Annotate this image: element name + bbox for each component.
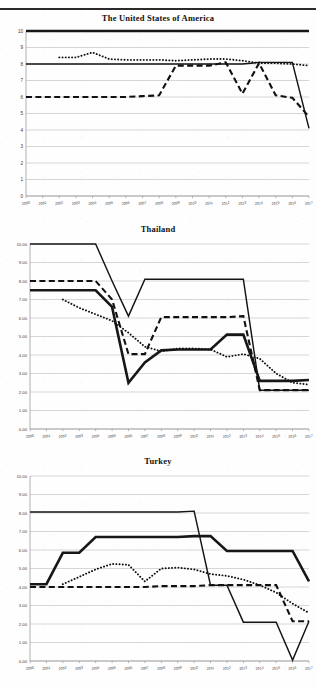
x-axis-tick-label: 2016 xyxy=(288,434,296,439)
y-axis-tick-label: 7.00 xyxy=(19,529,28,534)
x-axis-tick-label: 2008 xyxy=(155,201,163,206)
plot-svg-thailand: 0.001.002.003.004.005.006.007.008.009.00… xyxy=(0,235,316,457)
x-axis-tick-label: 2009 xyxy=(173,434,181,439)
x-axis-tick-label: 2006 xyxy=(124,666,132,671)
x-axis-tick-label: 2008 xyxy=(157,434,165,439)
x-axis-tick-label: 2005 xyxy=(108,434,116,439)
x-axis-tick-label: 2009 xyxy=(173,666,181,671)
x-axis-tick-label: 2002 xyxy=(55,201,63,206)
x-axis-tick-label: 2003 xyxy=(75,666,83,671)
plot-svg-usa: 0123456789102000200120022003200420052006… xyxy=(0,24,316,229)
plot-thailand: 0.001.002.003.004.005.006.007.008.009.00… xyxy=(0,235,316,457)
y-axis-tick-label: 1.00 xyxy=(19,408,28,413)
x-axis-tick-label: 2000 xyxy=(26,666,34,671)
series-line-thick-solid xyxy=(30,536,309,584)
y-axis-tick-label: 8 xyxy=(20,62,23,67)
y-axis-tick-label: 0.00 xyxy=(19,427,28,432)
y-axis-tick-label: 10.00 xyxy=(17,474,28,479)
x-axis-tick-label: 2004 xyxy=(91,434,99,439)
y-axis-tick-label: 6 xyxy=(20,95,23,100)
x-axis-tick-label: 2017 xyxy=(305,666,313,671)
x-axis-tick-label: 2013 xyxy=(239,666,247,671)
x-axis-tick-label: 2010 xyxy=(188,201,196,206)
y-axis-tick-label: 4.00 xyxy=(19,585,28,590)
y-axis-tick-label: 9.00 xyxy=(19,492,28,497)
scanned-page: The United States of America 01234567891… xyxy=(0,0,316,689)
x-axis-tick-label: 2014 xyxy=(255,666,263,671)
chart-title-usa: The United States of America xyxy=(0,13,316,24)
y-axis-tick-label: 5.00 xyxy=(19,566,28,571)
y-axis-tick-label: 9.00 xyxy=(19,260,28,265)
x-axis-tick-label: 2001 xyxy=(42,434,50,439)
chart-block-turkey: Turkey 0.001.002.003.004.005.006.007.008… xyxy=(0,456,316,689)
x-axis-tick-label: 2003 xyxy=(72,201,80,206)
x-axis-tick-label: 2017 xyxy=(305,434,313,439)
y-axis-tick-label: 3.00 xyxy=(19,371,28,376)
y-axis-tick-label: 10.00 xyxy=(17,242,28,247)
x-axis-tick-label: 2015 xyxy=(272,434,280,439)
x-axis-tick-label: 2004 xyxy=(88,201,96,206)
x-axis-tick-label: 2017 xyxy=(305,201,313,206)
y-axis-tick-label: 4.00 xyxy=(19,353,28,358)
x-axis-tick-label: 2000 xyxy=(26,434,34,439)
x-axis-tick-label: 2004 xyxy=(91,666,99,671)
y-axis-tick-label: 2.00 xyxy=(19,622,28,627)
x-axis-tick-label: 2010 xyxy=(190,666,198,671)
series-line-dashed xyxy=(30,585,309,621)
y-axis-tick-label: 8.00 xyxy=(19,511,28,516)
plot-svg-turkey: 0.001.002.003.004.005.006.007.008.009.00… xyxy=(0,467,316,689)
chart-title-thailand: Thailand xyxy=(0,224,316,235)
x-axis-tick-label: 2002 xyxy=(58,434,66,439)
x-axis-tick-label: 2011 xyxy=(206,434,214,439)
y-axis-tick-label: 5 xyxy=(20,111,23,116)
y-axis-tick-label: 9 xyxy=(20,45,23,50)
x-axis-tick-label: 2001 xyxy=(38,201,46,206)
y-axis-tick-label: 10 xyxy=(18,29,24,34)
x-axis-tick-label: 2015 xyxy=(271,201,279,206)
y-axis-tick-label: 2 xyxy=(20,161,23,166)
header-divider-rule xyxy=(0,8,316,10)
x-axis-tick-label: 2013 xyxy=(238,201,246,206)
x-axis-tick-label: 2002 xyxy=(58,666,66,671)
chart-title-turkey: Turkey xyxy=(0,456,316,467)
x-axis-tick-label: 2007 xyxy=(141,434,149,439)
y-axis-tick-label: 6.00 xyxy=(19,548,28,553)
x-axis-tick-label: 2016 xyxy=(288,666,296,671)
x-axis-tick-label: 2005 xyxy=(105,201,113,206)
y-axis-tick-label: 1.00 xyxy=(19,640,28,645)
x-axis-tick-label: 2003 xyxy=(75,434,83,439)
x-axis-tick-label: 2006 xyxy=(124,434,132,439)
x-axis-tick-label: 2016 xyxy=(288,201,296,206)
y-axis-tick-label: 1 xyxy=(20,177,23,182)
x-axis-tick-label: 2000 xyxy=(22,201,30,206)
y-axis-tick-label: 0.00 xyxy=(19,659,28,664)
series-line-dashed xyxy=(26,62,309,116)
x-axis-tick-label: 2012 xyxy=(223,666,231,671)
x-axis-tick-label: 2014 xyxy=(255,201,263,206)
x-axis-tick-label: 2007 xyxy=(141,666,149,671)
y-axis-tick-label: 8.00 xyxy=(19,279,28,284)
y-axis-tick-label: 5.00 xyxy=(19,334,28,339)
x-axis-tick-label: 2011 xyxy=(205,201,213,206)
y-axis-tick-label: 0 xyxy=(20,194,23,199)
x-axis-tick-label: 2010 xyxy=(190,434,198,439)
series-line-dotted xyxy=(63,300,309,385)
x-axis-tick-label: 2008 xyxy=(157,666,165,671)
x-axis-tick-label: 2011 xyxy=(206,666,214,671)
x-axis-tick-label: 2012 xyxy=(223,434,231,439)
x-axis-tick-label: 2009 xyxy=(171,201,179,206)
plot-turkey: 0.001.002.003.004.005.006.007.008.009.00… xyxy=(0,467,316,689)
chart-block-usa: The United States of America 01234567891… xyxy=(0,13,316,229)
y-axis-tick-label: 2.00 xyxy=(19,390,28,395)
x-axis-tick-label: 2005 xyxy=(108,666,116,671)
plot-usa: 0123456789102000200120022003200420052006… xyxy=(0,24,316,229)
x-axis-tick-label: 2015 xyxy=(272,666,280,671)
y-axis-tick-label: 7.00 xyxy=(19,297,28,302)
y-axis-tick-label: 4 xyxy=(20,128,23,133)
x-axis-tick-label: 2007 xyxy=(138,201,146,206)
chart-block-thailand: Thailand 0.001.002.003.004.005.006.007.0… xyxy=(0,224,316,457)
y-axis-tick-label: 7 xyxy=(20,78,23,83)
y-axis-tick-label: 3.00 xyxy=(19,603,28,608)
x-axis-tick-label: 2012 xyxy=(221,201,229,206)
y-axis-tick-label: 6.00 xyxy=(19,316,28,321)
